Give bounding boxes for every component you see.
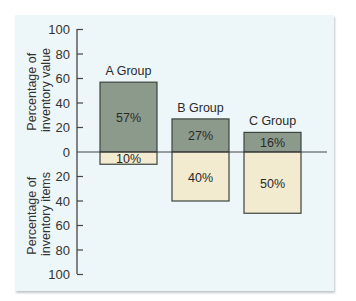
group-label: B Group bbox=[177, 101, 224, 115]
y-tick-label: 0 bbox=[63, 145, 70, 160]
bar-group-c-group: C Group16%50% bbox=[244, 114, 301, 213]
y-tick-label: 100 bbox=[48, 267, 70, 282]
value-label-up: 16% bbox=[260, 136, 285, 150]
y-tick-label: 20 bbox=[56, 169, 70, 184]
y-axis-title-upper: Percentage of inventory value bbox=[25, 48, 53, 132]
value-label-up: 27% bbox=[188, 129, 213, 143]
group-label: A Group bbox=[106, 64, 152, 78]
y-tick-label: 40 bbox=[56, 96, 70, 111]
y-tick-label: 80 bbox=[56, 47, 70, 62]
value-label-up: 57% bbox=[116, 111, 141, 125]
y-tick-label: 20 bbox=[56, 120, 70, 135]
bar-group-b-group: B Group27%40% bbox=[172, 101, 229, 201]
y-tick-label: 60 bbox=[56, 218, 70, 233]
y-tick-label: 60 bbox=[56, 71, 70, 86]
y-tick-label: 80 bbox=[56, 243, 70, 258]
value-label-down: 50% bbox=[260, 177, 285, 191]
bars: A Group57%10%B Group27%40%C Group16%50% bbox=[100, 64, 301, 213]
bar-group-a-group: A Group57%10% bbox=[100, 64, 157, 166]
group-label: C Group bbox=[249, 114, 296, 128]
y-tick-label: 100 bbox=[48, 22, 70, 37]
y-axis-title-lower: Percentage of inventory items bbox=[25, 172, 53, 256]
y-tick-label: 40 bbox=[56, 194, 70, 209]
value-label-down: 10% bbox=[116, 152, 141, 166]
value-label-down: 40% bbox=[188, 171, 213, 185]
abc-inventory-chart: Percentage of inventory value Percentage… bbox=[0, 0, 356, 301]
